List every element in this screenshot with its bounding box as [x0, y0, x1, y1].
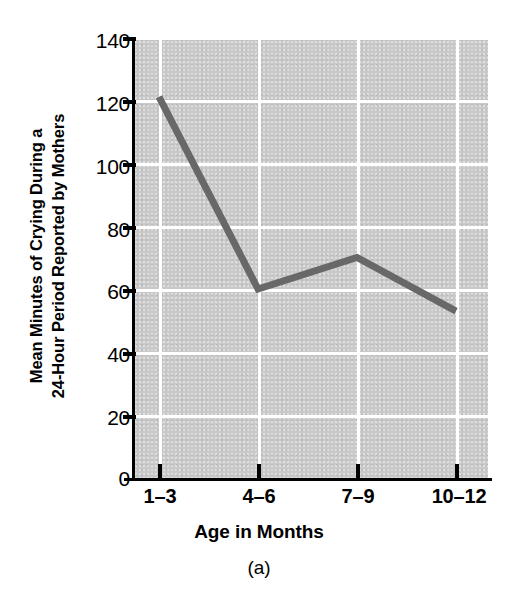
y-axis-tick-labels: 140 120 100 80 60 40 20 0	[82, 0, 130, 609]
x-tick-mark-1-3	[158, 464, 162, 479]
x-tick-mark-7-9	[356, 464, 360, 479]
y-tick-mark-20	[123, 415, 136, 419]
y-tick-mark-140	[123, 37, 136, 41]
series-polyline	[159, 97, 456, 311]
x-tick-label-4-6: 4–6	[243, 486, 276, 506]
figure-panel-a: Mean Minutes of Crying During a 24-Hour …	[0, 0, 518, 609]
y-tick-mark-100	[123, 163, 136, 167]
figure-caption: (a)	[0, 557, 518, 579]
x-tick-mark-10-12	[455, 464, 459, 479]
y-tick-mark-120	[123, 100, 136, 104]
x-tick-label-7-9: 7–9	[342, 486, 375, 506]
x-axis-title: Age in Months	[0, 521, 518, 543]
y-tick-mark-40	[123, 352, 136, 356]
y-tick-mark-60	[123, 289, 136, 293]
x-tick-label-1-3: 1–3	[144, 486, 177, 506]
y-tick-mark-80	[123, 226, 136, 230]
y-axis-title-line-1: Mean Minutes of Crying During a	[25, 114, 47, 398]
y-axis-title: Mean Minutes of Crying During a 24-Hour …	[12, 30, 82, 482]
data-series-line	[135, 37, 488, 478]
x-tick-mark-4-6	[257, 464, 261, 479]
x-tick-label-10-12: 10–12	[432, 486, 487, 506]
y-axis-title-text: Mean Minutes of Crying During a 24-Hour …	[25, 114, 69, 398]
y-axis-title-line-2: 24-Hour Period Reported by Mothers	[47, 114, 69, 398]
x-axis-line	[124, 478, 492, 481]
